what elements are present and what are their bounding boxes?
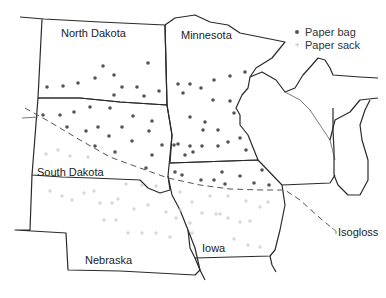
missouri-border [195, 256, 276, 280]
legend-label: Paper bag [305, 26, 356, 38]
label-nebraska: Nebraska [85, 254, 132, 266]
iowa-border [170, 160, 285, 258]
wisconsin-border [250, 58, 378, 92]
label-south-dakota: South Dakota [37, 166, 104, 178]
wisconsin-border-east [285, 92, 335, 160]
label-minnesota: Minnesota [181, 29, 232, 41]
label-iowa: Iowa [202, 242, 225, 254]
paper-sack-points [44, 148, 270, 249]
label-north-dakota: North Dakota [61, 27, 126, 39]
dot-icon [295, 30, 299, 34]
legend-label: Paper sack [305, 39, 360, 51]
plus-icon [295, 43, 299, 47]
legend-item-paper-bag: Paper bag [295, 25, 360, 38]
lake-michigan-border [333, 100, 370, 195]
michigan-border [330, 98, 378, 140]
legend: Paper bag Paper sack [295, 25, 360, 51]
south-dakota-border [32, 98, 172, 193]
legend-item-paper-sack: Paper sack [295, 38, 360, 51]
isogloss-label-tick [332, 228, 336, 234]
illinois-border [282, 175, 335, 185]
isogloss-left-stub [22, 117, 38, 118]
label-isogloss: Isogloss [338, 226, 378, 238]
